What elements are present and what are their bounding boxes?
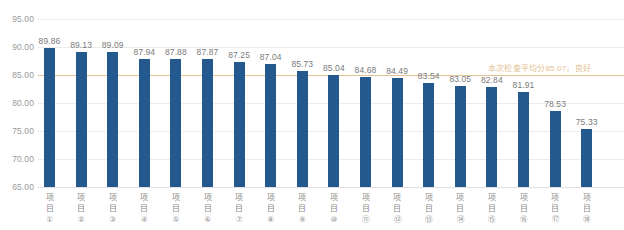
x-axis-label-index: ① bbox=[35, 214, 65, 225]
x-axis-tick-label: 项目⑨ bbox=[287, 192, 317, 225]
x-axis-tick-label: 项目⑦ bbox=[224, 192, 254, 225]
bar[interactable] bbox=[455, 86, 466, 187]
x-axis-label-index: ⑬ bbox=[414, 214, 444, 225]
x-axis-label-char: 目 bbox=[319, 203, 349, 214]
x-axis-label-char: 项 bbox=[540, 192, 570, 203]
x-axis-tick-label: 项目⑯ bbox=[509, 192, 539, 225]
x-axis-label-index: ⑰ bbox=[540, 214, 570, 225]
x-axis-label-char: 目 bbox=[351, 203, 381, 214]
x-axis-label-char: 目 bbox=[540, 203, 570, 214]
x-axis-label-char: 目 bbox=[129, 203, 159, 214]
x-axis-label-index: ⑨ bbox=[287, 214, 317, 225]
y-axis-tick-label: 65.00 bbox=[0, 183, 34, 192]
bar[interactable] bbox=[234, 62, 245, 187]
x-axis-tick-label: 项目⑪ bbox=[351, 192, 381, 225]
bar[interactable] bbox=[107, 52, 118, 187]
x-axis-label-char: 项 bbox=[382, 192, 412, 203]
x-axis-label-char: 项 bbox=[98, 192, 128, 203]
x-axis-label-index: ⑱ bbox=[572, 214, 602, 225]
x-axis-label-char: 项 bbox=[256, 192, 286, 203]
x-axis-tick-label: 项目③ bbox=[98, 192, 128, 225]
x-axis-tick-label: 项目⑭ bbox=[445, 192, 475, 225]
x-axis-label-char: 项 bbox=[66, 192, 96, 203]
bar[interactable] bbox=[328, 75, 339, 187]
x-axis-label-char: 项 bbox=[35, 192, 65, 203]
y-axis-tick-label: 80.00 bbox=[0, 99, 34, 108]
bar-chart: 95.0090.0085.0080.0075.0070.0065.00 本次检查… bbox=[0, 0, 624, 230]
x-axis-label-char: 项 bbox=[477, 192, 507, 203]
bar[interactable] bbox=[76, 52, 87, 187]
bar-value-label: 78.53 bbox=[535, 100, 575, 109]
x-axis-tick-label: 项目⑤ bbox=[161, 192, 191, 225]
x-axis-label-char: 目 bbox=[414, 203, 444, 214]
gridline bbox=[38, 19, 624, 20]
x-axis-label-char: 项 bbox=[193, 192, 223, 203]
x-axis-tick-label: 项目⑱ bbox=[572, 192, 602, 225]
x-axis-label-char: 项 bbox=[129, 192, 159, 203]
average-reference-label: 本次检查平均分85.07，良好 bbox=[488, 62, 591, 73]
x-axis-tick-label: 项目② bbox=[66, 192, 96, 225]
x-axis-label-index: ⑩ bbox=[319, 214, 349, 225]
x-axis-label-char: 项 bbox=[161, 192, 191, 203]
x-axis-label-index: ④ bbox=[129, 214, 159, 225]
x-axis-label-char: 项 bbox=[224, 192, 254, 203]
bar[interactable] bbox=[518, 92, 529, 187]
bar[interactable] bbox=[44, 48, 55, 187]
x-axis-label-char: 目 bbox=[193, 203, 223, 214]
plot-area: 本次检查平均分85.07，良好 89.86项目①89.13项目②89.09项目③… bbox=[38, 0, 624, 230]
x-axis-tick-label: 项目⑧ bbox=[256, 192, 286, 225]
x-axis-tick-label: 项目⑩ bbox=[319, 192, 349, 225]
bar[interactable] bbox=[423, 83, 434, 187]
x-axis-label-char: 目 bbox=[256, 203, 286, 214]
x-axis-label-index: ③ bbox=[98, 214, 128, 225]
x-axis-label-index: ⑪ bbox=[351, 214, 381, 225]
x-axis-tick-label: 项目⑥ bbox=[193, 192, 223, 225]
x-axis-tick-label: 项目⑰ bbox=[540, 192, 570, 225]
bar[interactable] bbox=[550, 111, 561, 187]
x-axis-label-char: 项 bbox=[445, 192, 475, 203]
x-axis-label-char: 目 bbox=[161, 203, 191, 214]
x-axis-tick-label: 项目⑮ bbox=[477, 192, 507, 225]
bar-value-label: 81.91 bbox=[504, 81, 544, 90]
x-axis-label-char: 项 bbox=[351, 192, 381, 203]
bar[interactable] bbox=[392, 78, 403, 187]
bar[interactable] bbox=[265, 64, 276, 187]
y-axis-tick-label: 75.00 bbox=[0, 127, 34, 136]
x-axis-label-index: ⑦ bbox=[224, 214, 254, 225]
x-axis-label-char: 项 bbox=[572, 192, 602, 203]
x-axis-label-char: 项 bbox=[287, 192, 317, 203]
bar[interactable] bbox=[170, 59, 181, 187]
bar[interactable] bbox=[202, 59, 213, 187]
bar[interactable] bbox=[297, 71, 308, 187]
x-axis-label-index: ⑧ bbox=[256, 214, 286, 225]
y-axis-tick-label: 70.00 bbox=[0, 155, 34, 164]
x-axis-label-char: 目 bbox=[224, 203, 254, 214]
x-axis-label-index: ② bbox=[66, 214, 96, 225]
x-axis-label-char: 项 bbox=[414, 192, 444, 203]
x-axis-label-char: 目 bbox=[382, 203, 412, 214]
x-axis-label-index: ⑤ bbox=[161, 214, 191, 225]
y-axis-tick-label: 95.00 bbox=[0, 15, 34, 24]
x-axis-label-index: ⑯ bbox=[509, 214, 539, 225]
x-axis-tick-label: 项目④ bbox=[129, 192, 159, 225]
bar[interactable] bbox=[360, 77, 371, 187]
x-axis-label-char: 目 bbox=[287, 203, 317, 214]
x-axis-label-char: 目 bbox=[35, 203, 65, 214]
bar[interactable] bbox=[486, 87, 497, 187]
x-axis-label-char: 项 bbox=[319, 192, 349, 203]
x-axis-label-char: 目 bbox=[477, 203, 507, 214]
x-axis-tick-label: 项目⑬ bbox=[414, 192, 444, 225]
x-axis-label-char: 目 bbox=[98, 203, 128, 214]
x-axis-label-char: 目 bbox=[509, 203, 539, 214]
x-axis-label-index: ⑥ bbox=[193, 214, 223, 225]
bar-value-label: 75.33 bbox=[567, 118, 607, 127]
x-axis-label-char: 目 bbox=[445, 203, 475, 214]
x-axis-label-index: ⑭ bbox=[445, 214, 475, 225]
x-axis-label-char: 目 bbox=[572, 203, 602, 214]
x-axis-label-index: ⑮ bbox=[477, 214, 507, 225]
x-axis-label-char: 项 bbox=[509, 192, 539, 203]
bar[interactable] bbox=[139, 59, 150, 187]
bar[interactable] bbox=[581, 129, 592, 187]
x-axis-tick-label: 项目① bbox=[35, 192, 65, 225]
gridline bbox=[38, 187, 624, 188]
